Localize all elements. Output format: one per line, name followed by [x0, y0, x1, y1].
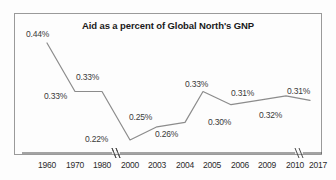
value-label: 0.31% — [231, 88, 254, 98]
data-series-line — [47, 43, 310, 140]
x-tick-label-2017: 2017 — [300, 160, 336, 170]
value-label: 0.30% — [208, 117, 231, 127]
value-label: 0.25% — [129, 112, 152, 122]
value-label: 0.26% — [155, 129, 178, 139]
value-label: 0.33% — [44, 91, 67, 101]
chart-container: Aid as a percent of Global North's GNP 0… — [0, 0, 336, 180]
value-label: 0.32% — [259, 110, 282, 120]
chart-plot-area — [0, 0, 336, 180]
axis-break-icon-left — [112, 148, 120, 158]
value-label: 0.22% — [85, 134, 108, 144]
axis-break-icon-right — [295, 148, 303, 158]
value-label: 0.44% — [26, 29, 49, 39]
value-label: 0.31% — [287, 86, 310, 96]
value-label: 0.33% — [185, 79, 208, 89]
value-label: 0.33% — [76, 72, 99, 82]
